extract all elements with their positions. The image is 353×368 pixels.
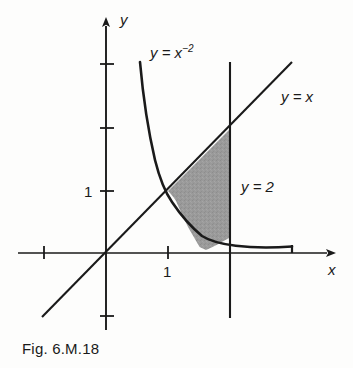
y-tick-label-1: 1 [84, 184, 92, 199]
x-tick-label-1: 1 [163, 264, 171, 279]
curve-label-hyperbola: y = x−2 [150, 44, 194, 60]
figure-container: y x 1 1 y = x−2 y = x y = 2 Fig. 6.M.18 [0, 0, 353, 368]
curve-label-exponent: −2 [182, 43, 193, 54]
figure-caption: Fig. 6.M.18 [22, 340, 99, 357]
line-label-vertical: y = 2 [241, 179, 274, 194]
line-label-diagonal: y = x [281, 89, 313, 104]
x-axis-label: x [328, 262, 336, 277]
y-axis-label: y [120, 12, 128, 27]
curve-label-base: y = x [150, 44, 182, 61]
